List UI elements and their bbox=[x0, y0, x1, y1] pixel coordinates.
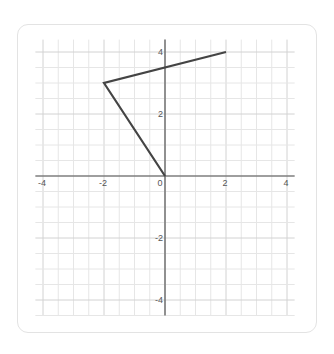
coordinate-plane: -4-2024-4-224 bbox=[0, 0, 334, 354]
y-tick-label: -4 bbox=[155, 295, 163, 305]
y-tick-label: 4 bbox=[158, 47, 163, 57]
x-tick-label: -4 bbox=[38, 178, 46, 188]
x-tick-label: 4 bbox=[283, 178, 288, 188]
axes bbox=[35, 40, 294, 316]
x-tick-label: 2 bbox=[222, 178, 227, 188]
y-tick-label: -2 bbox=[155, 233, 163, 243]
y-tick-label: 2 bbox=[158, 109, 163, 119]
x-tick-label: -2 bbox=[99, 178, 107, 188]
x-tick-label: 0 bbox=[157, 178, 162, 188]
